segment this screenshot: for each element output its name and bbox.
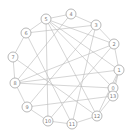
graph-edge [17,87,25,102]
graph-edge [30,29,93,103]
graph-node-label: 5 [44,16,47,22]
graph-edge [32,97,108,107]
graph-edge [51,48,111,117]
graph-node-11[interactable]: 11 [67,119,77,129]
graph-edge [50,22,115,67]
graph-edge [28,37,69,119]
graph-edge [20,83,108,88]
graph-node-1[interactable]: 1 [114,65,124,75]
graph-node-label: 4 [69,11,72,17]
graph-node-label: 7 [11,54,14,60]
graph-edge [20,46,110,81]
graph-node-7[interactable]: 7 [8,52,18,62]
graph-node-label: 6 [24,30,27,36]
graph-edge [51,15,66,18]
graph-node-2[interactable]: 2 [109,39,119,49]
graph-node-label: 11 [69,121,75,127]
graph-node-label: 10 [45,118,51,124]
graph-edge [18,18,68,79]
graph-node-label: 3 [94,22,97,28]
graph-edge [76,16,92,23]
graph-node-5[interactable]: 5 [41,14,51,24]
graph-edge [15,37,23,52]
graph-edge [20,71,114,83]
graph-node-label: 1 [117,67,120,73]
graph-edge [115,49,118,65]
graph-figure: 012345678910111213 [0,0,134,133]
graph-node-label: 12 [94,113,100,119]
graph-node-label: 2 [112,41,115,47]
graph-node-8[interactable]: 8 [10,78,20,88]
graph-node-3[interactable]: 3 [91,20,101,30]
graph-node-label: 13 [110,93,116,99]
graph-edge [31,110,44,118]
graph-edge [77,118,92,123]
graph-node-4[interactable]: 4 [66,9,76,19]
graph-node-12[interactable]: 12 [92,111,102,121]
graph-node-label: 9 [25,104,28,110]
graph-node-9[interactable]: 9 [22,102,32,112]
graph-node-10[interactable]: 10 [43,116,53,126]
graph-node-label: 8 [13,80,16,86]
graph-edge [30,22,42,30]
graph-canvas: 012345678910111213 [0,0,134,133]
graph-edge [53,122,67,124]
graph-node-label: 0 [111,85,114,91]
graph-edge [99,29,110,41]
node-layer: 012345678910111213 [8,9,124,129]
graph-edge [13,62,14,78]
graph-node-6[interactable]: 6 [21,28,31,38]
graph-node-13[interactable]: 13 [108,91,118,101]
